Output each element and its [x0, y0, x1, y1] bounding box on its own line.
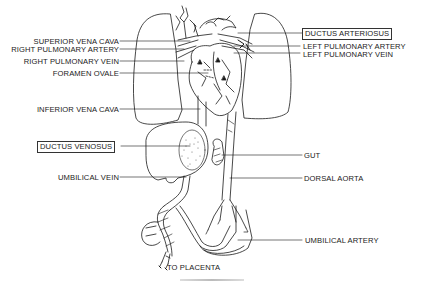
fetal-circulation-diagram: SUPERIOR VENA CAVA RIGHT PULMONARY ARTER…	[0, 0, 425, 282]
label-right-pulmonary-vein: RIGHT PULMONARY VEIN	[24, 57, 119, 66]
label-umbilical-vein: UMBILICAL VEIN	[58, 173, 119, 182]
label-left-pulmonary-vein: LEFT PULMONARY VEIN	[303, 50, 393, 59]
label-ductus-arteriosus: DUCTUS ARTERIOSUS	[302, 28, 392, 40]
label-dorsal-aorta: DORSAL AORTA	[304, 174, 363, 183]
clipped-caption	[180, 279, 244, 281]
aortic-arch	[200, 19, 236, 30]
label-right-pulmonary-artery: RIGHT PULMONARY ARTERY	[11, 45, 119, 54]
iliac-branches	[208, 200, 246, 230]
stipple	[182, 138, 201, 167]
right-lung-outline	[133, 14, 182, 125]
head-vessels	[176, 6, 198, 38]
label-umbilical-artery: UMBILICAL ARTERY	[305, 236, 379, 245]
label-ductus-venosus: DUCTUS VENOSUS	[37, 141, 115, 153]
liver-outline	[146, 122, 208, 183]
foramen-ovale-dashes	[204, 70, 214, 78]
ductus-venosus-region	[179, 130, 205, 170]
umbilical-arteries	[176, 206, 236, 251]
label-gut: GUT	[304, 151, 320, 160]
label-foramen-ovale: FORAMEN OVALE	[53, 69, 119, 78]
umbilical-vein-vessel	[164, 176, 190, 210]
interventricular-septum	[198, 52, 234, 104]
cord-loop	[142, 222, 160, 246]
heart-outline	[189, 43, 241, 115]
label-to-placenta: TO PLACENTA	[167, 263, 220, 272]
left-lung-outline	[242, 13, 291, 119]
label-inferior-vena-cava: INFERIOR VENA CAVA	[37, 105, 119, 114]
